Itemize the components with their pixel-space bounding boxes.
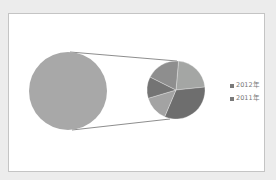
legend-item-2012[interactable]: 2012年 <box>230 79 260 92</box>
legend-swatch <box>230 97 234 101</box>
main-pie[interactable] <box>29 52 107 130</box>
legend-label: 2011年 <box>236 92 260 105</box>
legend-label: 2012年 <box>236 79 260 92</box>
pie-slice[interactable] <box>176 61 205 90</box>
legend-swatch <box>230 84 234 88</box>
secondary-pie[interactable] <box>147 61 205 119</box>
legend-item-2011[interactable]: 2011年 <box>230 92 260 105</box>
legend: 2012年 2011年 <box>230 79 260 105</box>
